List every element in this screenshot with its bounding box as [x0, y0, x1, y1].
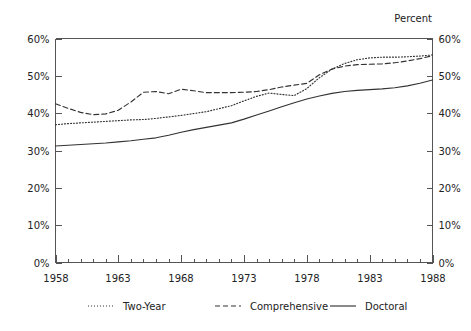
- x-tick-label: 1958: [43, 273, 68, 284]
- y-tick-label-right: 60%: [439, 34, 461, 45]
- x-tick-label: 1983: [357, 273, 382, 284]
- y-tick-label-right: 20%: [439, 183, 461, 194]
- legend-label-doctoral: Doctoral: [365, 301, 407, 312]
- y-tick-label-left: 40%: [27, 108, 49, 119]
- chart-legend: Two-YearComprehensiveDoctoral: [88, 301, 407, 312]
- y-tick-label-left: 20%: [27, 183, 49, 194]
- y-axis-left-ticks: 0%10%20%30%40%50%60%: [27, 34, 61, 269]
- x-tick-label: 1968: [168, 273, 193, 284]
- legend-label-comprehensive: Comprehensive: [250, 301, 328, 312]
- x-tick-label: 1963: [105, 273, 130, 284]
- x-tick-label: 1973: [231, 273, 256, 284]
- plot-frame: [56, 39, 433, 263]
- legend-label-two-year: Two-Year: [122, 301, 166, 312]
- y-axis-unit-title: Percent: [394, 13, 432, 24]
- y-axis-right-ticks: 0%10%20%30%40%50%60%: [427, 34, 461, 269]
- x-tick-label: 1978: [294, 273, 319, 284]
- y-tick-label-right: 0%: [439, 258, 455, 269]
- data-series-group: [56, 55, 433, 146]
- x-axis-ticks: 1958196319681973197819831988: [43, 255, 445, 284]
- y-tick-label-right: 40%: [439, 108, 461, 119]
- y-tick-label-right: 30%: [439, 146, 461, 157]
- y-tick-label-left: 0%: [34, 258, 50, 269]
- y-tick-label-left: 60%: [27, 34, 49, 45]
- y-tick-label-left: 50%: [27, 71, 49, 82]
- y-tick-label-left: 10%: [27, 220, 49, 231]
- line-chart-figure: 0%10%20%30%40%50%60% 0%10%20%30%40%50%60…: [0, 0, 471, 331]
- x-tick-label: 1988: [420, 273, 445, 284]
- y-tick-label-left: 30%: [27, 146, 49, 157]
- y-tick-label-right: 10%: [439, 220, 461, 231]
- series-line-doctoral: [56, 80, 433, 146]
- y-tick-label-right: 50%: [439, 71, 461, 82]
- series-line-comprehensive: [56, 56, 433, 115]
